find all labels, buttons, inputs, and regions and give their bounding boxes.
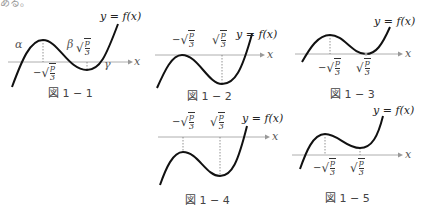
x-axis-arrow-icon xyxy=(398,52,403,57)
figure-caption: 図 1 − 1 xyxy=(48,84,93,100)
equation-label: y = f(x) xyxy=(374,15,415,28)
pos-sqrt-label: √p3 xyxy=(76,38,91,57)
x-axis-arrow-icon xyxy=(398,153,403,158)
equation-label: y = f(x) xyxy=(242,112,283,125)
tangent-point xyxy=(365,53,368,56)
figure-caption: 図 1 − 4 xyxy=(185,191,230,207)
neg-sqrt-label: −√p3 xyxy=(172,112,195,131)
beta-label: β xyxy=(67,38,73,51)
alpha-label: α xyxy=(15,38,22,51)
x-axis-label: x xyxy=(272,130,278,143)
x-axis-label: x xyxy=(405,47,411,60)
figure-caption: 図 1 − 5 xyxy=(325,189,370,205)
equation-label: y = f(x) xyxy=(236,28,277,41)
figure-1-1: y = f(x) α β γ x −√p3 √p3 図 1 − 1 xyxy=(0,0,145,100)
figure-1-2: y = f(x) x −√p3 √p3 図 1 − 2 xyxy=(140,0,285,100)
figure-caption: 図 1 − 3 xyxy=(330,85,375,101)
neg-sqrt-label: −√p3 xyxy=(313,158,336,177)
equation-label: y = f(x) xyxy=(373,104,414,117)
neg-sqrt-label: −√p3 xyxy=(318,58,341,77)
gamma-label: γ xyxy=(104,58,111,71)
pos-sqrt-label: √p3 xyxy=(350,158,365,177)
pos-sqrt-label: √p3 xyxy=(356,58,371,77)
figure-1-4: y = f(x) x −√p3 √p3 図 1 − 4 xyxy=(140,100,285,214)
pos-sqrt-label: √p3 xyxy=(212,30,227,49)
neg-sqrt-label: −√p3 xyxy=(172,30,195,49)
x-axis-arrow-icon xyxy=(260,53,265,58)
cubic-curve xyxy=(160,126,247,185)
x-axis-arrow-icon xyxy=(128,60,133,65)
x-axis-label: x xyxy=(405,148,411,161)
x-axis-label: x xyxy=(267,48,273,61)
figure-1-2-graph xyxy=(140,0,285,100)
figure-1-3: y = f(x) x −√p3 √p3 図 1 − 3 xyxy=(280,0,427,100)
cubic-curve xyxy=(302,27,390,62)
neg-sqrt-label: −√p3 xyxy=(33,63,56,82)
x-axis-arrow-icon xyxy=(265,135,270,140)
figure-1-5: y = f(x) x −√p3 √p3 図 1 − 5 xyxy=(280,100,427,214)
equation-label: y = f(x) xyxy=(100,10,141,23)
cubic-curve xyxy=(12,24,118,87)
pos-sqrt-label: √p3 xyxy=(210,112,225,131)
